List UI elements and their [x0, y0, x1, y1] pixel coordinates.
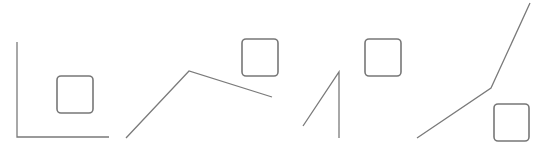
- panel-4: [417, 3, 530, 141]
- panel-4-box: [494, 104, 529, 141]
- panel-1-box: [57, 76, 93, 113]
- panel-2-polyline: [126, 71, 272, 138]
- panel-2: [126, 39, 278, 138]
- panel-3: [303, 39, 401, 138]
- figure-canvas: [0, 0, 549, 147]
- panel-3-polyline: [303, 72, 339, 138]
- panel-1: [17, 42, 109, 137]
- panel-1-polyline: [17, 42, 109, 137]
- panel-3-box: [365, 39, 401, 76]
- panel-2-box: [242, 39, 278, 76]
- line-box-figure: [0, 0, 549, 147]
- panel-4-polyline: [417, 3, 530, 138]
